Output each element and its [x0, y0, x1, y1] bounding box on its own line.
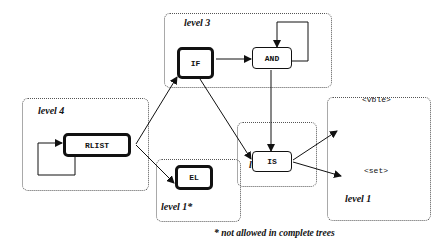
- is-node: IS: [252, 151, 292, 172]
- and-node: AND: [252, 47, 292, 69]
- el-node: EL: [175, 165, 213, 190]
- level-1-label: level 1: [345, 193, 371, 204]
- level-1-region: [327, 97, 431, 221]
- level-3-label: level 3: [184, 17, 210, 28]
- level-1-star-label: level 1*: [161, 201, 192, 212]
- rlist-node: RLIST: [63, 133, 131, 157]
- if-node: IF: [177, 47, 214, 79]
- level-4-label: level 4: [38, 105, 64, 116]
- vble-terminal: <vble>: [362, 95, 391, 104]
- footnote: * not allowed in complete trees: [214, 228, 335, 238]
- set-terminal: <set>: [364, 166, 388, 175]
